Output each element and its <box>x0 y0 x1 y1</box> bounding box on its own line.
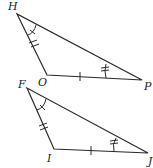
vertex-label-i: I <box>46 152 52 165</box>
angle-mark-f <box>37 99 46 110</box>
angle-mark-p <box>101 64 109 78</box>
triangle-fij-outline <box>27 88 148 153</box>
congruent-triangles-diagram: H O P F I J <box>0 0 153 168</box>
triangle-hop-outline <box>17 14 142 80</box>
vertex-label-j: J <box>146 155 153 168</box>
angle-mark-j <box>110 138 118 151</box>
vertex-label-h: H <box>7 0 18 13</box>
triangle-fij: F I J <box>17 78 153 168</box>
triangle-hop: H O P <box>7 0 152 93</box>
vertex-label-p: P <box>143 80 152 93</box>
vertex-label-o: O <box>38 76 47 89</box>
vertex-label-f: F <box>17 78 26 91</box>
angle-mark-h <box>28 25 36 35</box>
